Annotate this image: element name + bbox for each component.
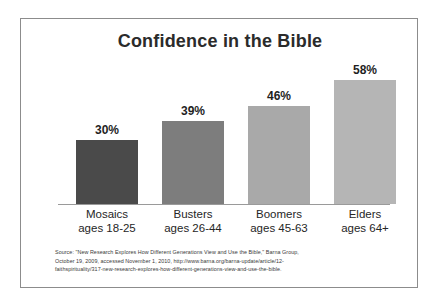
x-label-boomers: Boomers ages 45-63 [236, 207, 322, 235]
x-label-elders: Elders ages 64+ [322, 207, 408, 235]
bar-rect-elders [334, 80, 396, 204]
x-axis-labels: Mosaics ages 18-25 Busters ages 26-44 Bo… [58, 207, 388, 247]
x-label-elders-ages: ages 64+ [322, 221, 408, 235]
chart-title: Confidence in the Bible [0, 31, 440, 52]
x-label-busters-name: Busters [150, 207, 236, 221]
bar-group-mosaics: 30% [76, 140, 138, 204]
bar-rect-busters [162, 121, 224, 204]
x-label-boomers-name: Boomers [236, 207, 322, 221]
source-line-3: faithspirituality/317-new-research-explo… [55, 265, 389, 274]
bar-value-boomers: 46% [248, 89, 310, 106]
bar-group-busters: 39% [162, 121, 224, 204]
source-citation: Source: "New Research Explores How Diffe… [55, 248, 389, 274]
bar-group-boomers: 46% [248, 106, 310, 204]
x-label-busters-ages: ages 26-44 [150, 221, 236, 235]
bar-value-mosaics: 30% [76, 123, 138, 140]
bar-rect-boomers [248, 106, 310, 204]
x-label-mosaics-ages: ages 18-25 [64, 221, 150, 235]
plot-area: 30% 39% 46% 58% [58, 62, 388, 204]
bar-value-elders: 58% [334, 63, 396, 80]
x-axis-baseline [58, 204, 390, 205]
x-label-mosaics-name: Mosaics [64, 207, 150, 221]
bar-group-elders: 58% [334, 80, 396, 204]
bar-rect-mosaics [76, 140, 138, 204]
x-label-boomers-ages: ages 45-63 [236, 221, 322, 235]
bar-value-busters: 39% [162, 104, 224, 121]
x-label-mosaics: Mosaics ages 18-25 [64, 207, 150, 235]
chart-figure: Confidence in the Bible 30% 39% 46% 58% … [0, 0, 440, 306]
source-line-2: October 19, 2009, accessed November 1, 2… [55, 257, 389, 266]
source-line-1: Source: "New Research Explores How Diffe… [55, 248, 389, 257]
x-label-busters: Busters ages 26-44 [150, 207, 236, 235]
x-label-elders-name: Elders [322, 207, 408, 221]
